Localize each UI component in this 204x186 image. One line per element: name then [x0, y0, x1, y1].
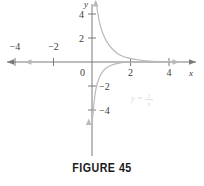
x-tick-label-2: 2	[128, 67, 133, 78]
x-axis-letter: x	[188, 68, 193, 78]
y-tick-label--2: −2	[99, 81, 110, 92]
x-tick-label--4: −4	[10, 41, 21, 52]
graph-plot: −4 −2 2 4 4 2 −2 −4 0 x y y = 1	[0, 0, 204, 160]
y-tick-label-4: 4	[79, 9, 84, 20]
y-tick-label--4: −4	[99, 105, 110, 116]
equation-label: y = 1 x	[130, 92, 153, 107]
curve-down-arrow-icon	[86, 119, 92, 126]
y-tick-label-2: 2	[79, 33, 84, 44]
curve-up-arrow-icon	[93, 0, 99, 7]
equation-equals-sign: =	[137, 94, 142, 103]
x-tick-label-4: 4	[167, 67, 172, 78]
x-tick-label--2: −2	[48, 41, 59, 52]
x-axis-right-arrow-icon	[189, 59, 196, 65]
y-axis-letter: y	[83, 0, 88, 9]
equation-numerator: 1	[147, 92, 150, 99]
origin-label: 0	[80, 67, 85, 78]
curve-right-arrow-icon	[173, 59, 180, 65]
curve-branch-positive	[93, 0, 180, 65]
figure-container: −4 −2 2 4 4 2 −2 −4 0 x y y = 1	[0, 0, 204, 186]
equation-lhs: y	[130, 94, 135, 103]
curve-left-arrow-icon	[25, 59, 32, 65]
figure-caption: FIGURE 45	[18, 160, 185, 175]
equation-denominator: x	[147, 100, 151, 107]
x-axis-left-arrow-icon	[7, 59, 14, 65]
